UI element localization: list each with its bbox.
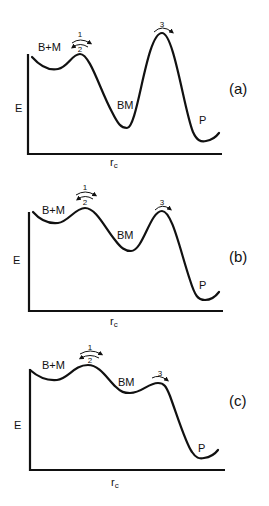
reactant-label: B+M — [38, 41, 61, 53]
step-2-label: 2 — [83, 198, 88, 207]
x-axis-label: rc — [111, 476, 119, 490]
axes — [29, 212, 223, 311]
step-2-label: 2 — [78, 45, 83, 54]
product-label: P — [199, 279, 206, 291]
product-label: P — [199, 114, 206, 126]
y-axis-label: E — [15, 102, 22, 114]
x-axis-label: rc — [110, 156, 118, 170]
y-axis-label: E — [14, 419, 21, 431]
panel-label: (a) — [229, 80, 247, 97]
step-1-label: 1 — [83, 183, 88, 192]
panel-label: (c) — [229, 392, 247, 409]
panel-label: (b) — [229, 248, 247, 265]
intermediate-label: BM — [117, 229, 134, 241]
step-3-label: 3 — [158, 369, 163, 378]
energy-curve — [33, 208, 219, 300]
panel-c: 1 2 3 B+M BM P E rc (c) — [14, 343, 247, 490]
reactant-label: B+M — [42, 359, 65, 371]
step-3-label: 3 — [160, 198, 165, 207]
y-axis-label: E — [13, 254, 20, 266]
forward-arrow-1 — [76, 192, 95, 195]
intermediate-label: BM — [118, 376, 135, 388]
step-3-label: 3 — [160, 20, 165, 29]
panel-a: 1 2 3 B+M BM P E rc (a) — [15, 20, 247, 170]
intermediate-label: BM — [117, 99, 134, 111]
x-axis-label: rc — [110, 315, 118, 329]
forward-arrow-1 — [72, 40, 90, 43]
step-1-label: 1 — [78, 30, 83, 39]
step-1-label: 1 — [88, 343, 93, 352]
energy-diagram-figure: 1 2 3 B+M BM P E rc (a) 1 2 3 B+M BM P E… — [0, 0, 269, 506]
reactant-label: B+M — [42, 204, 65, 216]
product-label: P — [198, 442, 205, 454]
step-2-label: 2 — [88, 356, 93, 365]
panel-b: 1 2 3 B+M BM P E rc (b) — [13, 183, 247, 329]
